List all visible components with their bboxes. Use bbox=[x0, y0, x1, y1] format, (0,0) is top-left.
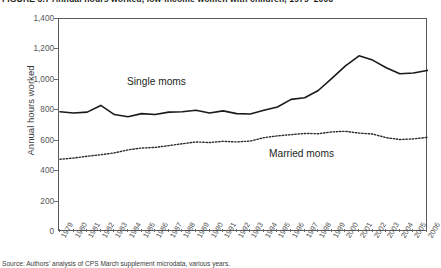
y-axis-tick-label: 0 bbox=[0, 227, 54, 236]
y-axis-tick-label: 1,000 bbox=[0, 74, 54, 83]
y-axis-tick-label: 400 bbox=[0, 166, 54, 175]
y-axis-tick-label: 800 bbox=[0, 105, 54, 114]
x-axis-tick-label: 2006 bbox=[426, 221, 441, 240]
x-axis-tick-mark bbox=[209, 229, 210, 232]
y-axis-tick-label: 1,200 bbox=[0, 44, 54, 53]
series-label-married-moms: Married moms bbox=[269, 148, 334, 159]
source-note: Source: Authors' analysis of CPS March s… bbox=[2, 260, 439, 268]
y-axis-tick-label: 200 bbox=[0, 196, 54, 205]
x-axis-tick-mark bbox=[141, 229, 142, 232]
y-axis-tick-label: 600 bbox=[0, 135, 54, 144]
line-single-moms bbox=[60, 56, 428, 117]
series-label-single-moms: Single moms bbox=[127, 76, 186, 87]
plot-area bbox=[58, 18, 427, 231]
series-lines bbox=[59, 19, 428, 232]
y-axis-tick-label: 1,400 bbox=[0, 14, 54, 23]
figure-title: FIGURE 3.7 Annual hours worked, low-inco… bbox=[2, 0, 439, 5]
line-married-moms bbox=[60, 131, 428, 159]
y-axis-tick-labels: 02004006008001,0001,2001,400 bbox=[0, 18, 54, 231]
